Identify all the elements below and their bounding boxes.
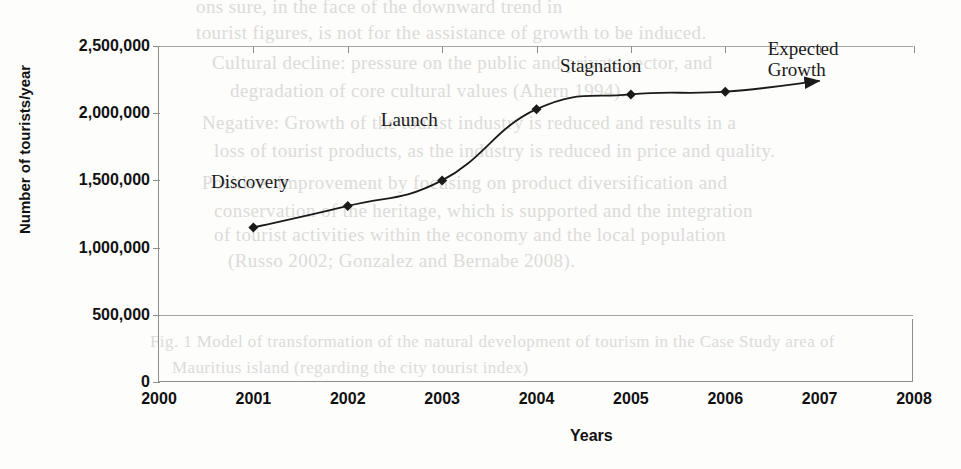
y-tick-label: 1,500,000 [79, 171, 159, 189]
x-tick-label: 2005 [613, 390, 649, 408]
y-tick-label: 500,000 [92, 306, 159, 324]
x-tick-label: 2007 [802, 390, 838, 408]
annotation-label: Expected Growth [768, 38, 839, 81]
data-point-marker [248, 222, 258, 232]
y-tick-label: 2,500,000 [79, 37, 159, 55]
plot-area: 0500,0001,000,0001,500,0002,000,0002,500… [158, 46, 913, 382]
scanned-chart-page: ons sure, in the face of the downward tr… [0, 0, 961, 469]
x-tick-label: 2001 [236, 390, 272, 408]
data-point-marker [532, 104, 542, 114]
x-tick-label: 2004 [519, 390, 555, 408]
x-tick-label: 2002 [330, 390, 366, 408]
y-tick-label: 1,000,000 [79, 239, 159, 257]
y-tick-mark [153, 382, 160, 383]
data-point-marker [626, 89, 636, 99]
y-axis-title: Number of tourists/year [16, 65, 33, 234]
bleed-through-line: tourist figures, is not for the assistan… [196, 22, 707, 44]
bleed-through-line: ons sure, in the face of the downward tr… [196, 0, 563, 18]
y-tick-label: 2,000,000 [79, 104, 159, 122]
x-tick-label: 2000 [141, 390, 177, 408]
x-axis-title: Years [570, 427, 613, 445]
x-tick-label: 2006 [707, 390, 743, 408]
data-point-marker [437, 175, 447, 185]
annotation-label: Launch [381, 109, 438, 130]
data-point-marker [720, 87, 730, 97]
x-tick-mark [914, 46, 915, 53]
data-point-marker [343, 201, 353, 211]
x-tick-label: 2008 [896, 390, 932, 408]
tourist-line-series [159, 46, 914, 382]
annotation-label: Stagnation [560, 55, 641, 76]
annotation-label: Discovery [211, 171, 289, 192]
x-tick-label: 2003 [424, 390, 460, 408]
